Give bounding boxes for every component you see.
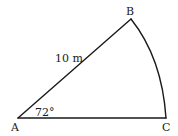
sector-diagram: A B C 10 m 72° bbox=[0, 0, 178, 136]
radius-ab bbox=[18, 19, 131, 118]
radius-length-label: 10 m bbox=[55, 52, 83, 65]
vertex-label-a: A bbox=[10, 121, 20, 134]
angle-label: 72° bbox=[35, 106, 55, 119]
vertex-label-b: B bbox=[126, 5, 134, 18]
vertex-label-c: C bbox=[162, 121, 170, 134]
arc-bc bbox=[131, 19, 166, 118]
